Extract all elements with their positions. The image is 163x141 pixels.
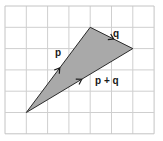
vector-label-q: q — [113, 28, 119, 39]
vector-label-p-plus-q: p + q — [95, 75, 119, 86]
vector-diagram: p q p + q — [0, 0, 163, 141]
vector-label-p: p — [55, 47, 61, 58]
